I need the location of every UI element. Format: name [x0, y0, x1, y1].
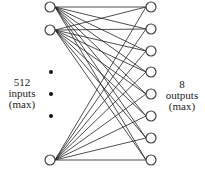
ellipsis-dot: [49, 70, 53, 74]
inputs-label: 512 inputs (max): [4, 77, 40, 110]
connection-line: [55, 30, 146, 51]
output-node: [146, 111, 156, 121]
connection-line: [55, 72, 146, 160]
output-node: [146, 89, 156, 99]
outputs-max: (max): [163, 101, 201, 112]
connection-line: [55, 7, 146, 94]
ellipsis-dot: [49, 114, 53, 118]
connection-line: [55, 7, 146, 116]
connection-lines: [55, 7, 146, 160]
ellipsis-dots: [49, 70, 53, 118]
connection-line: [55, 51, 146, 160]
input-node: [45, 155, 55, 165]
output-node: [146, 24, 156, 34]
connection-line: [55, 94, 146, 160]
inputs-max: (max): [4, 99, 40, 110]
connection-line: [55, 138, 146, 160]
ellipsis-dot: [49, 92, 53, 96]
input-nodes: [45, 2, 55, 165]
output-nodes: [146, 2, 156, 165]
output-node: [146, 155, 156, 165]
output-node: [146, 46, 156, 56]
input-node: [45, 2, 55, 12]
output-node: [146, 2, 156, 12]
input-node: [45, 25, 55, 35]
connection-line: [55, 30, 146, 72]
output-node: [146, 133, 156, 143]
connection-line: [55, 30, 146, 116]
output-node: [146, 67, 156, 77]
outputs-label: 8 outputs (max): [163, 79, 201, 112]
connection-line: [55, 116, 146, 160]
